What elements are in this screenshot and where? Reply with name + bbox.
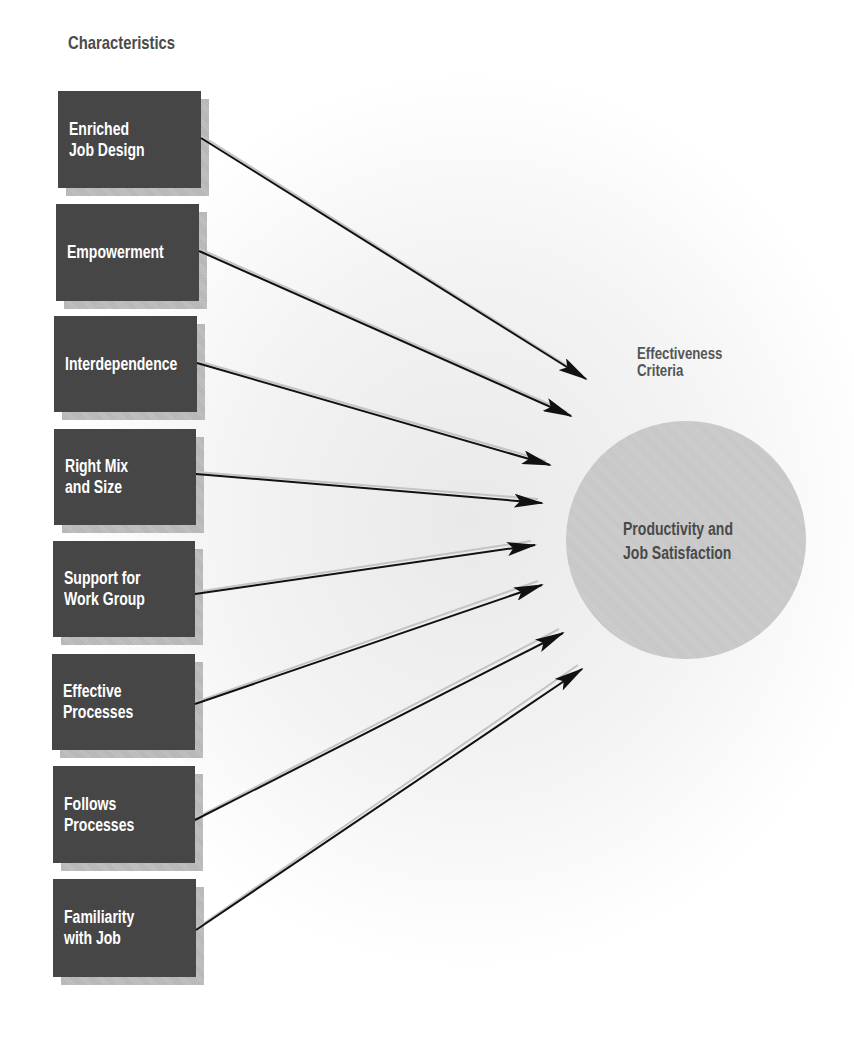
arrow-shadow: [196, 581, 538, 702]
arrow-icon: [195, 585, 542, 704]
arrow-shadow: [197, 472, 538, 499]
arrow-icon: [201, 138, 586, 379]
criteria-label-line-2: Criteria: [637, 362, 683, 379]
arrow-shadow: [197, 665, 578, 928]
arrow-shadow: [196, 541, 531, 592]
arrow-shadow: [198, 361, 546, 461]
arrow-shadow: [196, 629, 559, 818]
arrow-icon: [197, 363, 550, 465]
arrow-icon: [196, 474, 542, 503]
arrow-icon: [195, 633, 563, 820]
arrow-icon: [195, 545, 535, 594]
outcome-label-line-1: Productivity and: [623, 517, 733, 541]
arrow-icon: [196, 669, 582, 930]
outcome-label: Productivity and Job Satisfaction: [623, 517, 764, 565]
arrow-shadow: [202, 136, 582, 375]
outcome-label-line-2: Job Satisfaction: [623, 541, 731, 565]
effectiveness-criteria-label: Effectiveness Criteria: [637, 345, 747, 379]
criteria-label-line-1: Effectiveness: [637, 345, 723, 362]
